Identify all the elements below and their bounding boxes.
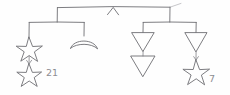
crescent-icon [71,41,98,49]
triangle-down-icon [131,56,155,76]
star-icon [183,60,210,85]
crescent-icon-inner [71,44,98,48]
triangle-down-icon [185,33,207,52]
annotation-21: 21 [46,67,58,78]
annotation-7: 7 [209,73,215,84]
root-assembly [58,3,182,14]
triangle-down-icon [132,33,154,52]
hanging-mobile-diagram: 21 7 [0,0,230,95]
star-icon [17,64,42,87]
right-branch-assembly [131,7,210,85]
caret-up-icon [108,7,119,14]
top-bar-tail-stroke [170,3,181,7]
diagram-canvas: 21 7 [0,0,230,95]
